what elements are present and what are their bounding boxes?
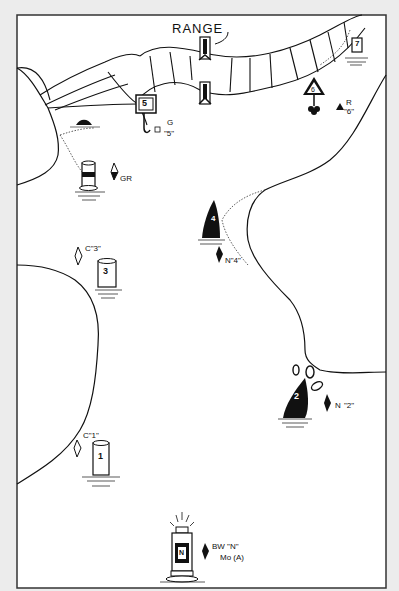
range-front-daymark-icon xyxy=(199,37,211,60)
daybeacon-6-name-label: "6" xyxy=(344,108,354,116)
range-rear-daymark-icon xyxy=(199,82,211,104)
daybeacon-5-number: 5 xyxy=(142,99,147,108)
nautical-chart xyxy=(0,0,399,591)
can-1-label: C"1" xyxy=(83,432,99,440)
daybeacon-6-color-label: R xyxy=(346,99,352,107)
daybeacon-5-color-label: G xyxy=(167,119,173,127)
nun-4-label: N"4" xyxy=(225,257,241,265)
range-title: RANGE xyxy=(172,22,223,35)
safe-water-label-b: Mo (A) xyxy=(220,554,244,562)
can-3-number: 3 xyxy=(103,267,108,276)
daybeacon-5-name-label: "5" xyxy=(164,130,174,138)
can-1-number: 1 xyxy=(98,452,103,461)
nun-2-label-a: N xyxy=(335,402,341,410)
safe-water-number: N xyxy=(179,549,184,556)
nun-2-label-b: "2" xyxy=(344,402,354,410)
daybeacon-6-number: 6 xyxy=(311,86,315,93)
can-3-label: C"3" xyxy=(85,245,101,253)
nun-2-number: 2 xyxy=(294,392,299,401)
junction-buoy-label: GR xyxy=(120,175,132,183)
daybeacon-7-number: 7 xyxy=(355,40,359,48)
safe-water-label-a: BW "N" xyxy=(212,543,239,551)
nun-4-number: 4 xyxy=(211,215,215,223)
